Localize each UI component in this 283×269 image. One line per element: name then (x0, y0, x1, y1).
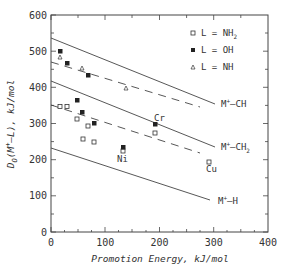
y-axis-title: DO(M+–L), kJ/mol (4, 80, 19, 170)
svg-text:L = NH: L = NH (201, 62, 234, 72)
svg-text:M+–H: M+–H (218, 194, 238, 206)
svg-text:400: 400 (29, 82, 47, 93)
svg-text:300: 300 (29, 118, 47, 129)
svg-text:Ni: Ni (117, 154, 128, 164)
svg-text:L = NH2: L = NH2 (201, 28, 238, 40)
svg-text:600: 600 (29, 10, 47, 21)
y-tick-labels: 0 100 200 300 400 500 600 (29, 10, 47, 238)
svg-text:M+–CH: M+–CH (221, 97, 246, 109)
svg-text:200: 200 (29, 154, 47, 165)
dashed-line-upper (51, 62, 200, 107)
series-oh (58, 49, 158, 150)
line-m-ch (51, 38, 215, 104)
metal-labels: Cr Ni Cu (117, 113, 217, 174)
line-m-ch2 (51, 81, 215, 147)
svg-text:Cr: Cr (154, 113, 165, 123)
svg-text:0: 0 (48, 237, 54, 248)
series-nh (58, 55, 128, 90)
svg-text:500: 500 (29, 46, 47, 57)
line-labels: M+–CH M+–CH2 M+–H (218, 97, 250, 206)
svg-text:400: 400 (259, 237, 277, 248)
svg-text:300: 300 (205, 237, 223, 248)
svg-text:M+–CH2: M+–CH2 (221, 140, 250, 154)
x-tick-labels: 0 100 200 300 400 (48, 237, 277, 248)
legend: L = NH2 L = OH L = NH (191, 28, 238, 72)
x-axis-title: Promotion Energy, kJ/mol (91, 253, 228, 264)
svg-text:100: 100 (96, 237, 114, 248)
line-m-h (51, 148, 210, 200)
svg-text:200: 200 (150, 237, 168, 248)
svg-text:0: 0 (41, 227, 47, 238)
svg-text:L = OH: L = OH (201, 45, 234, 55)
svg-text:DO(M+–L), kJ/mol: DO(M+–L), kJ/mol (4, 80, 19, 170)
chart: 0 100 200 300 400 0 100 200 300 400 500 … (0, 0, 283, 269)
svg-text:100: 100 (29, 190, 47, 201)
svg-text:Cu: Cu (206, 164, 217, 174)
